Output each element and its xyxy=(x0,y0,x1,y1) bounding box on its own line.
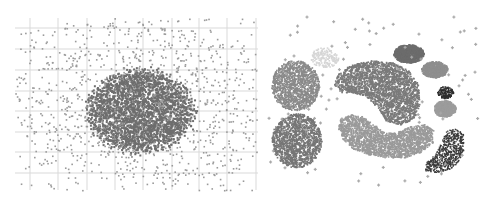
right-cluster-panel xyxy=(268,16,480,187)
speckled-cluster xyxy=(437,86,454,99)
left-scatter-panel xyxy=(15,18,258,192)
lower-left-blob xyxy=(271,113,322,168)
medium-ellipse xyxy=(421,61,448,79)
light-ellipse xyxy=(434,100,457,117)
faint-cluster xyxy=(311,47,340,68)
kidney-cluster xyxy=(334,60,420,125)
dark-ellipse xyxy=(393,44,425,64)
scatter-figure xyxy=(0,0,482,203)
upper-left-blob xyxy=(271,61,320,112)
figure xyxy=(0,0,482,203)
